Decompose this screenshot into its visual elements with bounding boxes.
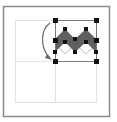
transform-diagram (0, 0, 117, 122)
